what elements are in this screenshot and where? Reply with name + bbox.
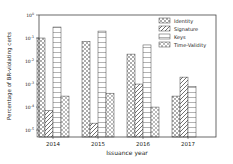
- bar-time-validity-2015: [106, 93, 114, 137]
- legend-label: Signature: [174, 26, 198, 33]
- bar-keys-2015: [98, 31, 106, 137]
- x-tick-label: 2015: [91, 141, 105, 147]
- bar-identity-2016: [127, 54, 135, 137]
- bar-keys-2014: [53, 27, 61, 137]
- x-tick-label: 2017: [181, 141, 195, 147]
- x-axis: 2014201520162017: [46, 137, 195, 147]
- y-tick-label: 10-1: [25, 35, 34, 41]
- bar-identity-2015: [82, 42, 90, 137]
- bar-keys-2016: [143, 45, 151, 137]
- legend: IdentitySignatureKeysTime-Validity: [159, 18, 206, 49]
- y-tick-label: 10-3: [25, 81, 34, 87]
- bar-signature-2016: [135, 84, 143, 137]
- x-axis-label: Issuance year: [106, 149, 148, 157]
- bar-chart: 10010-110-210-310-410-5 2014201520162017…: [0, 0, 233, 164]
- legend-swatch-identity: [159, 18, 170, 23]
- bar-signature-2015: [90, 123, 98, 137]
- legend-label: Identity: [174, 18, 193, 25]
- bar-identity-2017: [172, 96, 180, 137]
- bar-keys-2017: [188, 86, 196, 137]
- bar-signature-2017: [180, 77, 188, 137]
- bar-time-validity-2014: [61, 96, 69, 137]
- legend-label: Keys: [174, 34, 186, 41]
- bar-signature-2014: [45, 111, 53, 137]
- bars-group: [37, 27, 196, 137]
- y-tick-label: 10-5: [25, 127, 34, 133]
- legend-label: Time-Validity: [173, 42, 206, 49]
- legend-swatch-signature: [159, 26, 170, 31]
- x-tick-label: 2014: [46, 141, 60, 147]
- y-axis-label: Percentage of BR-violating certs: [6, 32, 13, 120]
- x-tick-label: 2016: [136, 141, 150, 147]
- bar-time-validity-2016: [151, 107, 159, 137]
- bar-identity-2014: [37, 38, 45, 137]
- legend-swatch-time-validity: [159, 42, 170, 47]
- y-tick-label: 10-4: [25, 104, 34, 110]
- y-tick-label: 100: [26, 12, 34, 18]
- legend-swatch-keys: [159, 34, 170, 39]
- y-tick-label: 10-2: [25, 58, 34, 64]
